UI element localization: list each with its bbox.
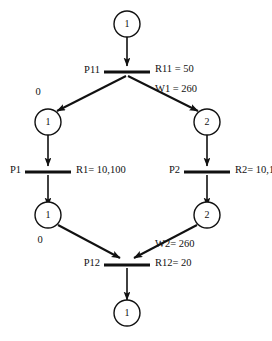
place-token-count-mid-right: 2 [205, 116, 210, 127]
place-mid-left[interactable]: 1 [35, 109, 61, 135]
transition-p2[interactable]: P2 R2= 10,100 [169, 164, 272, 175]
transition-p12[interactable]: P12 R12= 20 W2= 260 [84, 238, 195, 268]
rate-label-r11: R11 = 50 [155, 63, 194, 74]
place-bottom[interactable]: 1 [114, 300, 140, 326]
place-token-count-bottom: 1 [125, 307, 130, 318]
place-mid-right[interactable]: 2 [194, 109, 220, 135]
transition-label-p1: P1 [10, 164, 21, 175]
arc-label-left-top: 0 [35, 86, 40, 97]
rate-label-r1: R1= 10,100 [76, 164, 126, 175]
rate-label-r2: R2= 10,100 [235, 164, 272, 175]
petri-net-diagram: P11 R11 = 50 W1 = 260 P1 R1= 10,100 P2 R… [0, 0, 272, 341]
arc-lower-left-to-p12 [58, 225, 120, 258]
place-token-count-top: 1 [125, 18, 130, 29]
place-token-count-lower-right: 2 [205, 209, 210, 220]
weight-label-w2: W2= 260 [155, 238, 194, 249]
place-top[interactable]: 1 [114, 11, 140, 37]
place-lower-right[interactable]: 2 [194, 202, 220, 228]
rate-label-r12: R12= 20 [155, 257, 192, 268]
transition-label-p11: P11 [84, 64, 100, 75]
transition-label-p2: P2 [169, 164, 180, 175]
weight-label-w1: W1 = 260 [155, 83, 197, 94]
arc-p11-to-mid-left [57, 76, 126, 111]
place-token-count-lower-left: 1 [46, 209, 51, 220]
place-token-count-mid-left: 1 [46, 116, 51, 127]
transition-p1[interactable]: P1 R1= 10,100 [10, 164, 126, 175]
place-lower-left[interactable]: 1 [35, 202, 61, 228]
petri-net-canvas: P11 R11 = 50 W1 = 260 P1 R1= 10,100 P2 R… [0, 0, 272, 341]
arc-label-left-bottom: 0 [37, 234, 42, 245]
transition-label-p12: P12 [84, 257, 100, 268]
